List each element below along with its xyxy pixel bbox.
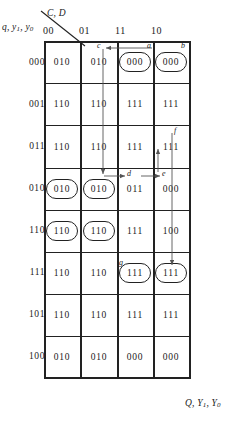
arc-label-g: g [119,258,123,267]
row-header-001: 001 [5,99,45,109]
cell-r4-c1: 110 [81,210,117,252]
cell-r3-c0: 010 [44,168,80,210]
cell-r5-c3: 111 [153,252,189,294]
cell-r3-c2: 011 [117,168,153,210]
column-variables-label: C, D [47,8,66,18]
output-variables-label: Q, Y1, Y0 [185,398,221,409]
karnaugh-map-diagram: C, D q, y1, y0 00 01 11 10 000 001 011 0… [0,0,249,422]
arc-label-b: b [181,41,185,50]
arc-label-f: f [174,126,176,135]
row-header-011: 011 [5,141,45,151]
cell-r1-c3: 111 [153,83,189,125]
arc-label-c: c [97,41,101,50]
cell-r0-c0: 010 [44,41,80,83]
row-header-101: 101 [5,309,45,319]
column-header-3: 10 [134,25,179,36]
cell-r7-c1: 010 [81,336,117,378]
cell-r7-c3: 000 [153,336,189,378]
row-header-100: 100 [5,351,45,361]
cell-r6-c1: 110 [81,294,117,336]
cell-r1-c1: 110 [81,83,117,125]
cell-r3-c1: 010 [81,168,117,210]
cell-r3-c3: 000 [153,168,189,210]
row-header-111: 111 [5,267,45,277]
row-header-000: 000 [5,57,45,67]
row-header-010: 010 [5,183,45,193]
cell-r4-c3: 100 [153,210,189,252]
cell-r5-c1: 110 [81,252,117,294]
cell-r5-c0: 110 [44,252,80,294]
cell-r1-c2: 111 [117,83,153,125]
cell-r6-c0: 110 [44,294,80,336]
cell-r6-c3: 111 [153,294,189,336]
cell-r2-c0: 110 [44,126,80,168]
cell-r2-c2: 111 [117,126,153,168]
cell-r7-c0: 010 [44,336,80,378]
arc-label-e: e [162,169,166,178]
cell-r6-c2: 111 [117,294,153,336]
row-header-110: 110 [5,225,45,235]
arc-label-d: d [127,169,131,178]
cell-r2-c3: 111 [153,126,189,168]
cell-r1-c0: 110 [44,83,80,125]
cell-r2-c1: 110 [81,126,117,168]
cell-r7-c2: 000 [117,336,153,378]
map-grid: 010 010 000 000 110 110 111 111 110 110 … [44,41,190,379]
cell-r4-c2: 111 [117,210,153,252]
cell-r4-c0: 110 [44,210,80,252]
grid-line-v-4 [189,41,191,379]
arc-label-a: a [147,41,151,50]
